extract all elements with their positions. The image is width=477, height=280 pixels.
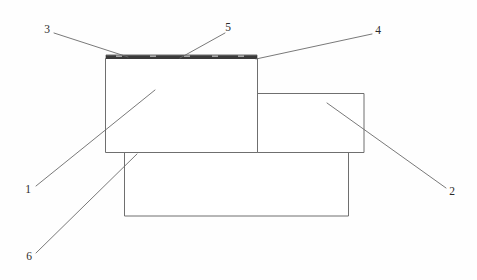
leader-line-4 xyxy=(256,34,372,59)
coating-tick-4 xyxy=(212,56,218,57)
callout-label-1: 1 xyxy=(25,183,31,195)
leader-line-3 xyxy=(54,33,128,57)
callout-label-3: 3 xyxy=(44,23,50,35)
callout-label-5: 5 xyxy=(225,21,231,33)
callout-label-6: 6 xyxy=(26,250,32,262)
upper-left-block xyxy=(106,59,258,153)
coating-tick-5 xyxy=(238,56,244,57)
callout-label-4: 4 xyxy=(375,24,381,36)
figure-root: 1 2 3 4 5 6 xyxy=(0,0,477,280)
leader-line-6 xyxy=(36,154,137,253)
lower-base-block xyxy=(125,153,349,217)
right-step-block xyxy=(258,94,365,153)
cross-section-diagram: 1 2 3 4 5 6 xyxy=(0,0,477,280)
coating-tick-1 xyxy=(116,56,122,57)
coating-tick-2 xyxy=(150,56,156,57)
leader-line-5 xyxy=(180,33,225,58)
callout-label-2: 2 xyxy=(449,185,455,197)
